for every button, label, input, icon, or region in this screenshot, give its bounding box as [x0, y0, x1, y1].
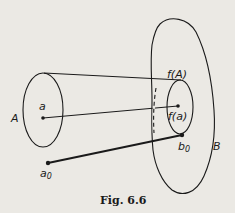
label-a0: a0 — [40, 167, 52, 181]
diagram-canvas: A a a0 f(A) f(a) b0 B Fig. 6.6 — [0, 0, 235, 213]
cone-top-line — [44, 73, 181, 80]
cone-bottom-line — [48, 135, 182, 163]
label-fa: f(a) — [168, 110, 187, 123]
figure-6-6: A a a0 f(A) f(a) b0 B Fig. 6.6 — [0, 0, 235, 213]
figure-caption: Fig. 6.6 — [100, 194, 147, 207]
point-fa — [176, 104, 180, 108]
point-a — [41, 116, 45, 120]
label-b0: b0 — [178, 140, 190, 154]
label-B: B — [213, 140, 221, 153]
label-a: a — [39, 100, 46, 113]
label-fA: f(A) — [167, 68, 187, 81]
point-b0 — [180, 133, 184, 137]
point-a0 — [46, 161, 50, 165]
region-B-outline — [151, 19, 214, 194]
label-A: A — [10, 112, 19, 125]
